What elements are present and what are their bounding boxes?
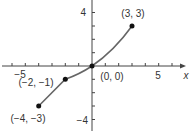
y-tick-label-4: 4 — [80, 7, 86, 18]
point-label-neg4-neg3: (−4, −3) — [10, 113, 45, 124]
point-neg2-neg1 — [63, 77, 68, 82]
point-3-3 — [130, 24, 135, 29]
y-tick-label-neg4: −4 — [77, 115, 89, 126]
point-label-3-3: (3, 3) — [121, 8, 144, 19]
graph: −5 5 x 4 −4 (−4, −3) (−2, −1) (0, 0) (3,… — [0, 0, 193, 131]
x-axis-label: x — [183, 70, 190, 81]
point-neg4-neg3 — [36, 104, 41, 109]
x-tick-label-5: 5 — [155, 70, 161, 81]
point-origin — [90, 64, 95, 69]
point-label-neg2-neg1: (−2, −1) — [18, 77, 53, 88]
point-label-origin: (0, 0) — [100, 71, 123, 82]
x-axis-arrow-icon — [180, 64, 186, 69]
